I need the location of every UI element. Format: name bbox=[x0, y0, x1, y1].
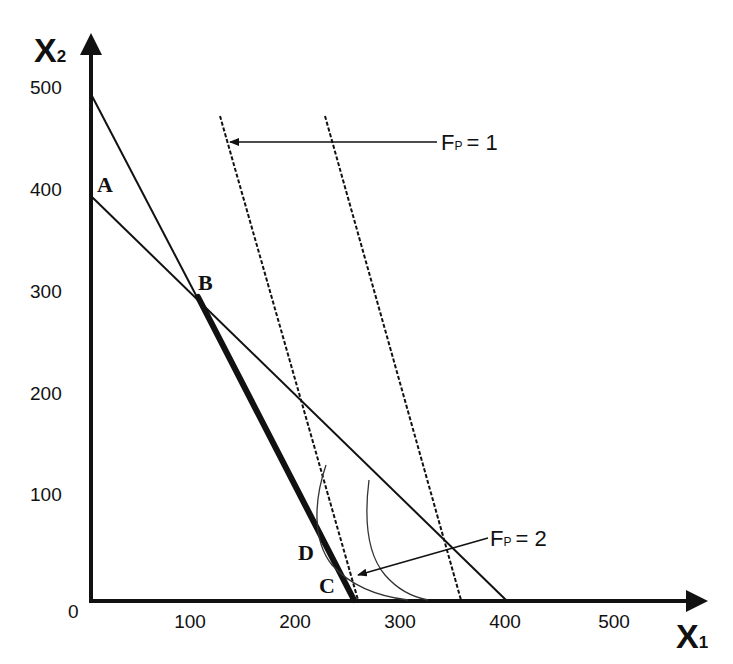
x-tick-label: 200 bbox=[279, 611, 311, 632]
x-tick-label: 500 bbox=[598, 611, 630, 632]
objective-line-1 bbox=[220, 116, 358, 600]
point-label-d: D bbox=[298, 540, 314, 565]
y-axis-arrow-icon bbox=[80, 33, 102, 55]
x-axis bbox=[89, 590, 708, 612]
y-tick-label: 500 bbox=[30, 77, 62, 98]
point-label-b: B bbox=[198, 270, 213, 295]
x-tick-label: 400 bbox=[489, 611, 521, 632]
origin-label: 0 bbox=[68, 601, 79, 622]
x-tick-label: 300 bbox=[384, 611, 416, 632]
x-axis-title: X1 bbox=[676, 617, 708, 655]
fp2-arrow bbox=[358, 538, 488, 575]
x-axis-arrow-icon bbox=[686, 590, 708, 612]
y-tick-label: 200 bbox=[30, 383, 62, 404]
y-axis-title: X2 bbox=[34, 31, 66, 69]
y-axis bbox=[80, 33, 102, 601]
x-tick-label: 100 bbox=[174, 611, 206, 632]
objective-line-2 bbox=[325, 116, 461, 600]
point-label-a: A bbox=[97, 172, 113, 197]
y-tick-label: 400 bbox=[30, 179, 62, 200]
y-tick-label: 300 bbox=[30, 281, 62, 302]
point-label-c: C bbox=[319, 573, 335, 598]
lp-chart: X2 X1 500 400 300 200 100 0 100 200 300 … bbox=[0, 0, 733, 664]
y-tick-label: 100 bbox=[30, 484, 62, 505]
fp1-label: FP= 1 bbox=[441, 130, 498, 155]
fp2-label: FP= 2 bbox=[490, 526, 547, 551]
feasible-edge-bc bbox=[198, 297, 354, 600]
curve-2 bbox=[367, 480, 428, 600]
